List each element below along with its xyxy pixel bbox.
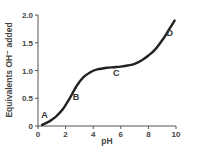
point-label-b: B	[73, 92, 80, 102]
point-label-d: D	[167, 28, 174, 38]
y-tick-label: 0	[29, 122, 34, 131]
point-label-a: A	[41, 110, 48, 120]
axes	[38, 15, 176, 126]
y-tick-label: 1.5	[22, 39, 34, 48]
titration-curve	[42, 21, 175, 125]
x-tick-label: 10	[172, 130, 181, 139]
titration-chart: 024681000.51.01.52.0 ABCD pH Equivalents…	[0, 0, 201, 157]
point-label-c: C	[113, 68, 120, 78]
y-axis-label: Equivalents OH⁻ added	[4, 22, 14, 117]
x-tick-label: 8	[146, 130, 151, 139]
x-tick-label: 2	[63, 130, 68, 139]
y-tick-label: 2.0	[22, 11, 34, 20]
x-tick-label: 4	[91, 130, 96, 139]
y-tick-label: 0.5	[22, 94, 34, 103]
x-axis-label: pH	[101, 136, 112, 146]
y-tick-label: 1.0	[22, 67, 34, 76]
x-tick-label: 6	[119, 130, 124, 139]
point-labels: ABCD	[41, 28, 173, 120]
x-tick-label: 0	[36, 130, 41, 139]
